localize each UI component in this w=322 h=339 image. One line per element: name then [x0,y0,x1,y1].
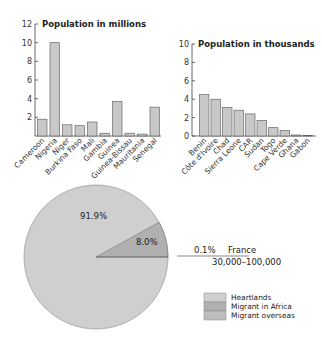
bar-nigeria [50,43,60,136]
bar-burkina-faso [75,126,85,136]
chart-population-thousands: 0 2 4 6 8 10 Population in thousands Ben… [179,39,316,176]
y-tick-label: 6 [27,76,32,85]
pie-label-heartlands: 91.9% [80,211,107,221]
bar-chad [223,108,233,137]
bar-niger [63,125,73,136]
bar-mali [88,122,98,136]
y-tick-label: 12 [22,20,32,29]
y-ticks-thousands: 0 2 4 6 8 10 [179,40,195,141]
bars-millions [38,43,160,136]
y-tick-label: 8 [27,57,32,66]
y-tick-label: 10 [22,39,32,48]
y-tick-label: 2 [184,114,189,123]
legend-swatch-migrant-africa [204,302,226,311]
overseas-pct-label: 0.1% [194,245,216,255]
legend-label-migrant-overseas: Migrant overseas [231,311,295,320]
chart-title-thousands: Population in thousands [198,39,315,49]
bar-benin [200,95,210,136]
legend-label-migrant-africa: Migrant in Africa [231,302,292,311]
bar-cameroon [38,119,48,136]
bar-senegal [150,107,160,136]
legend-swatch-migrant-overseas [204,311,226,320]
y-tick-label: 4 [27,95,32,104]
y-tick-label: 0 [184,132,189,141]
bar-togo [269,128,279,136]
pie-legend: Heartlands Migrant in Africa Migrant ove… [204,293,295,320]
bar-car [246,114,256,136]
bar-sudan [257,120,267,136]
legend-label-heartlands: Heartlands [231,293,272,302]
bar-cote-divoire [211,99,221,136]
y-tick-label: 4 [184,95,189,104]
overseas-range-label: 30,000–100,000 [212,257,281,267]
pie-label-africa: 8.0% [136,237,158,247]
x-labels-thousands: Benin Côte d'Ivoire Chad Sierra Leone CA… [180,136,312,177]
y-tick-label: 6 [184,77,189,86]
y-tick-label: 2 [27,113,32,122]
overseas-destination-label: France [228,245,256,255]
chart-title-millions: Population in millions [42,19,146,29]
x-labels-millions: Cameroon Nigeria Niger Burkina Faso Mali… [12,135,159,180]
bar-guinea-bissau [125,133,135,136]
y-ticks-millions: 2 4 6 8 10 12 [22,20,38,122]
bar-gambia [100,133,110,136]
bars-thousands [200,95,313,136]
chart-population-millions: 2 4 6 8 10 12 Population in millions Cam… [12,19,161,181]
legend-swatch-heartlands [204,293,226,302]
y-tick-label: 10 [179,40,189,49]
bar-mauritania [138,134,148,136]
y-tick-label: 8 [184,58,189,67]
bar-cape-verde [280,131,290,137]
bar-guinea [113,102,123,137]
bar-sierra-leone [234,110,244,136]
